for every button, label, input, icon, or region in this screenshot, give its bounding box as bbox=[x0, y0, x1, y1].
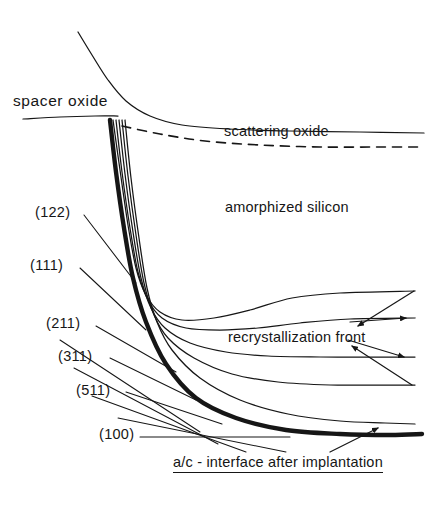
label-miller-index-511: (511) bbox=[76, 383, 110, 398]
curve-spacer-oxide-base-line bbox=[23, 116, 118, 119]
label-miller-index-122: (122) bbox=[35, 205, 70, 220]
curve-recryst-front-2 bbox=[116, 120, 415, 330]
label-ac-interface: a/c - interface after implantation bbox=[173, 455, 383, 473]
label-miller-index-100: (100) bbox=[99, 427, 134, 442]
curve-recryst-front-5 bbox=[125, 120, 415, 424]
curve-ac-interface-thick bbox=[110, 120, 422, 435]
label-miller-index-211: (211) bbox=[46, 316, 80, 331]
curve-arrow-lower-b bbox=[352, 346, 412, 385]
label-recrystallization-front: recrystallization front bbox=[228, 330, 366, 345]
curve-recryst-front-3 bbox=[119, 120, 415, 357]
figure-canvas bbox=[0, 0, 439, 512]
curve-leader-111 bbox=[80, 268, 146, 330]
label-miller-index-111: (111) bbox=[30, 258, 63, 273]
curve-spacer-oxide-top-surface bbox=[78, 32, 424, 133]
label-amorphized-silicon: amorphized silicon bbox=[225, 200, 349, 215]
curve-fan-ray-c bbox=[92, 396, 246, 452]
curve-recryst-front-4 bbox=[122, 120, 415, 385]
curve-fan-ray-b bbox=[74, 368, 218, 444]
label-miller-index-311: (311) bbox=[58, 349, 92, 364]
label-scattering-oxide: scattering oxide bbox=[224, 124, 329, 139]
curve-arrow-ac bbox=[330, 428, 378, 452]
figure-root: spacer oxide scattering oxide amorphized… bbox=[0, 0, 439, 512]
curve-recryst-front-1 bbox=[113, 120, 415, 320]
label-spacer-oxide: spacer oxide bbox=[13, 93, 108, 109]
